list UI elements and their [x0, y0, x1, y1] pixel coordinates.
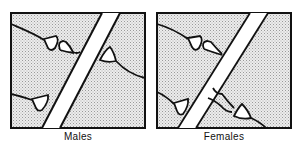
females-panel [156, 12, 292, 129]
females-label: Females [156, 131, 292, 142]
males-label: Males [10, 131, 146, 142]
females-neuron-diagram [156, 12, 292, 129]
males-neuron-diagram [10, 12, 146, 129]
males-panel [10, 12, 146, 129]
